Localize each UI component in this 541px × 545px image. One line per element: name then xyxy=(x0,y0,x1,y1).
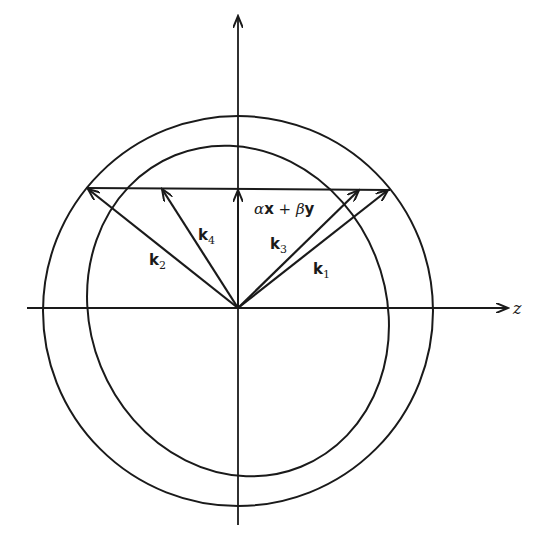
y-unit-vector: y xyxy=(305,200,315,218)
x-unit-vector: x xyxy=(264,200,274,218)
diagram-canvas: z αx + βy k1 k3 k2 k4 xyxy=(0,0,541,545)
plus-sign: + xyxy=(274,200,296,218)
label-k2: k2 xyxy=(149,251,166,272)
vector-k4 xyxy=(162,189,238,308)
beta-symbol: β xyxy=(295,200,305,218)
alpha-symbol: α xyxy=(254,200,264,218)
label-k3: k3 xyxy=(270,235,287,256)
transverse-vector-label: αx + βy xyxy=(254,200,315,218)
label-k4: k4 xyxy=(198,226,215,247)
vector-k2 xyxy=(88,189,238,308)
diagram-svg: z αx + βy k1 k3 k2 k4 xyxy=(0,0,541,545)
z-axis-label: z xyxy=(512,299,522,318)
transverse-chord xyxy=(86,188,390,190)
label-k1: k1 xyxy=(313,260,330,281)
